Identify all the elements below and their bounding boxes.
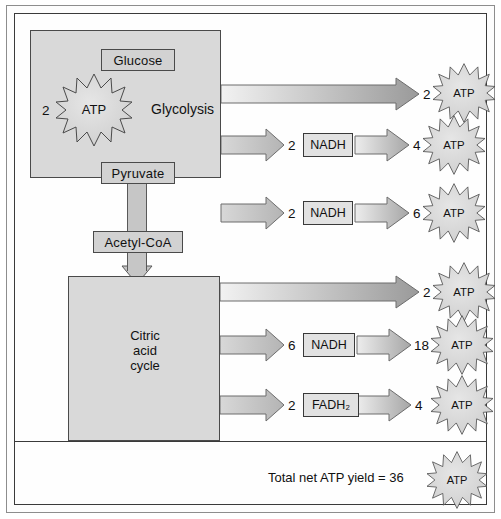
arrow-citric-fadh2-stub <box>220 389 284 421</box>
carrier-box-citric-fadh2: FADH₂ <box>303 393 359 417</box>
atp-input-burst-label: ATP <box>82 102 106 117</box>
yield-count-pyruvate-nadh: 6 <box>413 206 421 221</box>
yield-count-glycolysis-atp: 2 <box>423 87 431 102</box>
acetyl-coa-box: Acetyl-CoA <box>93 231 183 253</box>
atp-burst-label: ATP <box>453 286 474 298</box>
atp-burst-label: ATP <box>447 474 468 486</box>
atp-burst-pyruvate-nadh: ATP <box>423 182 485 244</box>
carrier-box-pyruvate-nadh: NADH <box>303 201 353 225</box>
diagram-canvas: Glucose Pyruvate Acetyl-CoA Glycolysis C… <box>0 0 501 519</box>
atp-burst-label: ATP <box>443 207 464 219</box>
atp-input-count: 2 <box>42 103 50 118</box>
atp-burst-label: ATP <box>451 399 472 411</box>
carrier-count-glycolysis-nadh: 2 <box>288 138 296 153</box>
atp-burst-citric-nadh: ATP <box>431 314 493 376</box>
yield-count-citric-nadh: 18 <box>414 338 429 353</box>
cycle-label-line-1: Citric <box>110 328 180 343</box>
arrow-citric-nadh-to-atp <box>357 329 411 361</box>
yield-count-glycolysis-nadh: 4 <box>413 138 421 153</box>
arrow-citric-atp <box>220 276 419 308</box>
carrier-count-pyruvate-nadh: 2 <box>288 206 296 221</box>
arrow-citric-nadh-stub <box>220 329 284 361</box>
atp-burst-label: ATP <box>451 339 472 351</box>
carrier-box-citric-nadh: NADH <box>303 333 355 357</box>
pyruvate-label: Pyruvate <box>112 166 165 181</box>
yield-count-citric-fadh2: 4 <box>415 398 423 413</box>
atp-burst-total: ATP <box>427 450 487 510</box>
acetylcoa-to-mitochondrion-stem <box>127 253 147 271</box>
citric-acid-cycle-label: Citric acid cycle <box>110 328 180 373</box>
arrow-pyruvate-nadh-to-atp <box>355 197 409 229</box>
total-atp-yield-label: Total net ATP yield = 36 <box>268 470 404 485</box>
arrow-citric-fadh2-to-atp <box>357 389 411 421</box>
atp-input-burst: ATP <box>56 72 132 148</box>
cycle-label-line-3: cycle <box>110 358 180 373</box>
carrier-box-glycolysis-nadh: NADH <box>303 133 353 157</box>
atp-burst-label: ATP <box>453 87 474 99</box>
glycolysis-pathway-label: Glycolysis <box>151 101 214 117</box>
arrow-glycolysis-nadh-to-atp <box>355 129 409 161</box>
glucose-box: Glucose <box>101 49 175 71</box>
cycle-label-line-2: acid <box>110 343 180 358</box>
atp-burst-glycolysis-nadh: ATP <box>423 114 485 176</box>
glucose-label: Glucose <box>113 53 162 68</box>
carrier-label: NADH <box>311 338 346 352</box>
atp-burst-citric-fadh2: ATP <box>431 374 493 436</box>
carrier-count-citric-nadh: 6 <box>288 338 296 353</box>
summary-divider <box>15 441 486 442</box>
acetyl-coa-label: Acetyl-CoA <box>104 235 171 250</box>
atp-burst-label: ATP <box>443 139 464 151</box>
arrow-pyruvate-nadh-stub <box>221 197 284 229</box>
carrier-count-citric-fadh2: 2 <box>288 398 296 413</box>
carrier-label: NADH <box>310 206 345 220</box>
carrier-label: FADH₂ <box>312 398 350 412</box>
pyruvate-to-acetylcoa-stem <box>127 184 147 232</box>
arrow-glycolysis-nadh-stub <box>221 129 284 161</box>
pyruvate-box: Pyruvate <box>101 162 175 184</box>
yield-count-citric-atp: 2 <box>423 285 431 300</box>
carrier-label: NADH <box>310 138 345 152</box>
arrow-glycolysis-atp <box>221 78 419 110</box>
